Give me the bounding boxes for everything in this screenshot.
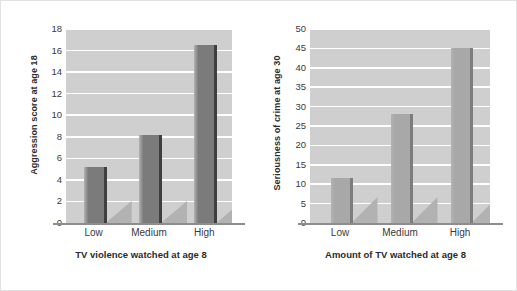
bar[interactable] <box>194 45 214 223</box>
x-axis-title: TV violence watched at age 8 <box>41 249 241 260</box>
x-axis-category-label: Medium <box>382 227 418 238</box>
y-axis-tick-label: 20 <box>295 140 306 150</box>
bar-shadow <box>161 201 187 223</box>
bar[interactable] <box>451 48 470 223</box>
y-axis-tick-label: 35 <box>295 82 306 92</box>
y-axis-tick-label: 30 <box>295 102 306 112</box>
y-axis-tick-label: 12 <box>51 89 62 99</box>
y-axis-tick-label: 10 <box>295 179 306 189</box>
y-axis-tick-label: 4 <box>57 175 62 185</box>
y-axis-tick-label: 14 <box>51 67 62 77</box>
y-axis-tick-label: 10 <box>51 110 62 120</box>
x-axis-line <box>298 223 503 225</box>
y-axis-tick-label: 45 <box>295 43 306 53</box>
bar-shadow <box>216 201 232 223</box>
bar-body <box>451 48 470 223</box>
bar-shadow <box>106 201 132 223</box>
bar[interactable] <box>331 178 350 223</box>
y-axis-tick-label: 25 <box>295 121 306 131</box>
bar[interactable] <box>139 135 159 223</box>
bar-body <box>194 45 214 223</box>
bar-body <box>391 114 410 223</box>
bar[interactable] <box>84 167 104 223</box>
chart-panel-aggression: Aggression score at age 18 0246810121416… <box>1 1 259 291</box>
y-axis-tick-label: 8 <box>57 132 62 142</box>
x-axis-category-label: Low <box>331 227 349 238</box>
bar-edge <box>410 114 413 223</box>
bar-body <box>331 178 350 223</box>
bar-edge <box>104 167 107 223</box>
y-axis-tick-label: 15 <box>295 160 306 170</box>
figure-container: Aggression score at age 18 0246810121416… <box>0 0 517 291</box>
x-axis-category-label: High <box>194 227 215 238</box>
y-axis-tick-label: 5 <box>301 199 306 209</box>
gridline <box>66 29 232 30</box>
x-axis-category-labels: LowMediumHigh <box>66 227 232 241</box>
y-axis-tick-label: 18 <box>51 24 62 34</box>
x-axis-category-label: High <box>450 227 471 238</box>
x-axis-line <box>53 223 245 225</box>
x-axis-title: Amount of TV watched at age 8 <box>288 249 503 260</box>
x-axis-category-label: Medium <box>131 227 167 238</box>
bar-shadow <box>352 197 378 223</box>
bar[interactable] <box>391 114 410 223</box>
x-axis-category-label: Low <box>84 227 102 238</box>
bar-edge <box>350 178 353 223</box>
bar-shadow <box>472 197 491 223</box>
bar-edge <box>470 48 473 223</box>
chart-panel-crime: Seriousness of crime at age 30 051015202… <box>260 1 517 291</box>
y-axis-tick-label: 50 <box>295 24 306 34</box>
y-axis-tick-label: 2 <box>57 196 62 206</box>
gridline <box>310 29 490 30</box>
y-axis-tick-labels: 05101520253035404550 <box>280 29 306 223</box>
x-axis-category-labels: LowMediumHigh <box>310 227 490 241</box>
y-axis-tick-label: 16 <box>51 46 62 56</box>
bar-body <box>84 167 104 223</box>
y-axis-tick-label: 6 <box>57 153 62 163</box>
y-axis-tick-labels: 024681012141618 <box>36 29 62 223</box>
bar-edge <box>159 135 162 223</box>
bar-shadow <box>412 197 438 223</box>
plot-area <box>310 29 490 223</box>
bar-edge <box>214 45 217 223</box>
y-axis-tick-label: 40 <box>295 63 306 73</box>
bar-body <box>139 135 159 223</box>
plot-area <box>66 29 232 223</box>
